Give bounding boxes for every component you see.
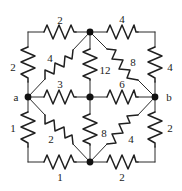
resistor-mid-right-symbol <box>107 90 138 104</box>
resistor-label-bottom-left: 1 <box>57 172 63 183</box>
resistor-bottom-left-symbol <box>44 155 76 169</box>
resistor-right-upper-symbol <box>148 47 162 82</box>
resistor-label-top-left: 2 <box>57 15 63 26</box>
resistor-label-right-upper: 4 <box>167 62 173 73</box>
junction-dot-center <box>86 93 93 100</box>
junction-dot-bottom-center <box>87 159 94 166</box>
resistor-label-diag-top-left: 4 <box>47 53 53 64</box>
resistor-mid-left-symbol <box>44 90 76 104</box>
resistor-label-top-right: 4 <box>119 14 125 25</box>
resistor-label-right-lower: 2 <box>167 123 173 134</box>
resistor-network-figure: 2 4 2 1 4 2 1 2 3 6 12 8 4 8 2 4 a b <box>0 0 182 191</box>
terminal-label-a: a <box>14 92 19 103</box>
resistor-label-mid-right: 6 <box>119 79 125 90</box>
wire-diag-bl-lead-a <box>28 97 45 115</box>
resistor-label-diag-bottom-right: 4 <box>128 134 134 145</box>
wire-diag-br-lead-a <box>90 144 107 162</box>
resistor-label-center-lower: 8 <box>101 128 107 139</box>
resistor-right-lower-symbol <box>148 112 162 147</box>
terminal-label-b: b <box>166 92 172 103</box>
resistor-top-left-symbol <box>44 25 76 39</box>
junction-dot-top-center <box>87 29 94 36</box>
resistor-top-right-symbol <box>107 25 138 39</box>
resistor-bottom-right-symbol <box>107 155 138 169</box>
wire-diag-bl-lead-b <box>73 144 90 162</box>
wire-diag-tl-lead-a <box>28 79 45 97</box>
wire-diag-tl-lead-b <box>73 32 90 50</box>
resistor-left-lower-symbol <box>21 112 35 147</box>
resistor-label-bottom-right: 2 <box>119 172 125 183</box>
resistor-left-upper-symbol <box>21 47 35 82</box>
circuit-schematic <box>0 0 182 191</box>
wire-diag-tr-lead-b <box>138 80 155 97</box>
resistor-label-mid-left: 3 <box>57 79 63 90</box>
resistor-label-center-upper: 12 <box>100 65 111 76</box>
resistor-label-left-lower: 1 <box>10 123 16 134</box>
resistor-center-lower-symbol <box>83 114 97 145</box>
resistor-label-left-upper: 2 <box>10 62 16 73</box>
junction-dot-terminal-b <box>152 94 159 101</box>
junction-dot-terminal-a <box>25 94 32 101</box>
wire-diag-tr-lead-a <box>90 32 107 49</box>
resistor-label-diag-top-right: 8 <box>130 57 136 68</box>
resistor-center-upper-symbol <box>83 49 97 80</box>
resistor-label-diag-bottom-left: 2 <box>48 134 54 145</box>
